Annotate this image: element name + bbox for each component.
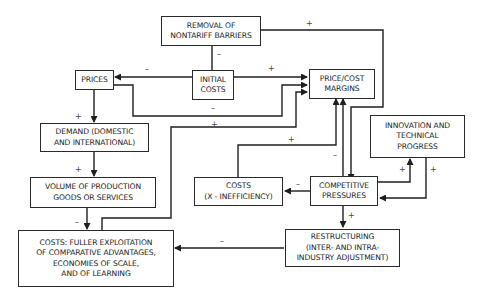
sign-removal-initial: – [217, 51, 221, 59]
sign-innovation-competitive: + [430, 166, 437, 174]
sign-competitive-innovation: + [399, 166, 406, 174]
node-demand: DEMAND (DOMESTIC AND INTERNATIONAL) [40, 123, 149, 152]
sign-initial-prices: – [145, 66, 149, 74]
node-competitive-pressures: COMPETITIVE PRESSURES [310, 176, 378, 206]
edge-innovation-competitive [380, 158, 426, 198]
sign-prices-margins: – [211, 105, 215, 113]
sign-xcosts-margins: + [288, 136, 295, 144]
sign-demand-volume: + [75, 166, 82, 174]
edge-removal-competitive [260, 30, 383, 180]
sign-competitive-margins: – [333, 152, 337, 160]
sign-competitive-xcosts: – [296, 181, 300, 189]
sign-removal-competitive: + [306, 20, 313, 28]
node-removal-of-nontariff-barriers: REMOVAL OF NONTARIFF BARRIERS [161, 16, 261, 46]
node-price-cost-margins: PRICE/COST MARGINS [309, 69, 375, 99]
node-costs-x-inefficiency: COSTS (X - INEFFICIENCY) [194, 177, 283, 206]
causal-diagram: REMOVAL OF NONTARIFF BARRIERS INITIAL CO… [0, 0, 480, 305]
sign-volume-fuller: – [75, 219, 79, 227]
node-restructuring: RESTRUCTURING (INTER- AND INTRA- INDUSTR… [285, 229, 400, 267]
edge-xcosts-margins [238, 99, 336, 178]
sign-prices-demand: + [75, 113, 82, 121]
node-costs-fuller-exploitation: COSTS: FULLER EXPLOITATION OF COMPARATIV… [18, 230, 174, 287]
node-prices: PRICES [75, 70, 114, 90]
node-volume-of-production: VOLUME OF PRODUCTION GOODS OR SERVICES [30, 177, 156, 208]
sign-competitive-restructuring: + [348, 212, 355, 220]
node-initial-costs: INITIAL COSTS [192, 70, 234, 100]
sign-restructuring-fuller: – [220, 238, 224, 246]
sign-initial-margins: + [268, 65, 275, 73]
sign-fuller-margins: + [211, 121, 218, 129]
node-innovation-technical-progress: INNOVATION AND TECHNICAL PROGRESS [370, 115, 465, 158]
